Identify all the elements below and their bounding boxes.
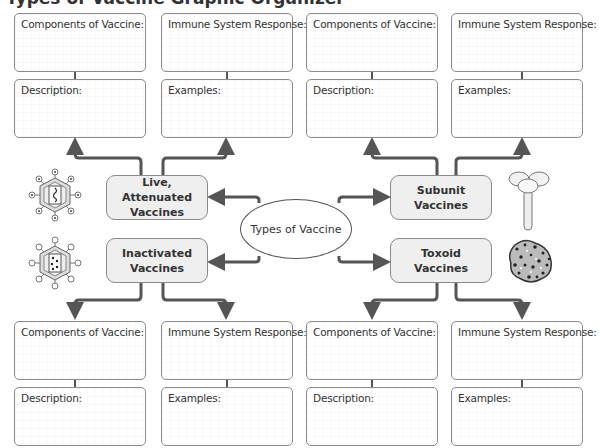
label-inactivated-vaccines: Inactivated Vaccines xyxy=(106,238,208,283)
panel-toxoid-components[interactable]: Components of Vaccine: xyxy=(306,321,438,380)
toxin-molecule-icon xyxy=(505,235,555,285)
panel-label: Description: xyxy=(313,392,374,404)
label-line: Vaccines xyxy=(122,261,192,276)
panel-label: Description: xyxy=(21,84,82,96)
panel-connector xyxy=(74,380,76,387)
panel-live-description[interactable]: Description: xyxy=(14,79,146,138)
panel-inactivated-immune-response[interactable]: Immune System Response: xyxy=(161,321,293,380)
panel-label: Components of Vaccine: xyxy=(313,18,436,30)
panel-subunit-components[interactable]: Components of Vaccine: xyxy=(306,13,438,72)
panel-live-examples[interactable]: Examples: xyxy=(161,79,293,138)
panel-toxoid-description[interactable]: Description: xyxy=(306,387,438,446)
label-line: Vaccines xyxy=(107,205,207,220)
center-label: Types of Vaccine xyxy=(251,223,342,236)
panel-label: Description: xyxy=(313,84,374,96)
panel-connector xyxy=(521,72,523,79)
panel-label: Immune System Response: xyxy=(458,326,597,338)
panel-label: Immune System Response: xyxy=(458,18,597,30)
protein-subunit-icon xyxy=(505,170,555,232)
panel-connector xyxy=(226,380,228,387)
label-line: Vaccines xyxy=(414,198,468,213)
panel-toxoid-immune-response[interactable]: Immune System Response: xyxy=(451,321,583,380)
label-line: Inactivated xyxy=(122,246,192,261)
virus-with-dots-icon xyxy=(28,236,82,290)
panel-subunit-immune-response[interactable]: Immune System Response: xyxy=(451,13,583,72)
label-live-attenuated-vaccines: Live, Attenuated Vaccines xyxy=(106,175,208,220)
panel-inactivated-components[interactable]: Components of Vaccine: xyxy=(14,321,146,380)
label-line: Toxoid xyxy=(414,246,468,261)
panel-label: Examples: xyxy=(458,392,511,404)
center-node: Types of Vaccine xyxy=(240,199,352,259)
panel-live-components[interactable]: Components of Vaccine: xyxy=(14,13,146,72)
panel-inactivated-examples[interactable]: Examples: xyxy=(161,387,293,446)
label-line: Live, Attenuated xyxy=(107,175,207,205)
panel-connector xyxy=(74,72,76,79)
panel-label: Description: xyxy=(21,392,82,404)
panel-inactivated-description[interactable]: Description: xyxy=(14,387,146,446)
label-subunit-vaccines: Subunit Vaccines xyxy=(390,175,492,220)
panel-label: Components of Vaccine: xyxy=(313,326,436,338)
panel-label: Examples: xyxy=(458,84,511,96)
panel-subunit-description[interactable]: Description: xyxy=(306,79,438,138)
panel-label: Immune System Response: xyxy=(168,18,307,30)
panel-connector xyxy=(371,380,373,387)
panel-connector xyxy=(521,380,523,387)
label-line: Subunit xyxy=(414,183,468,198)
panel-connector xyxy=(371,72,373,79)
panel-live-immune-response[interactable]: Immune System Response: xyxy=(161,13,293,72)
panel-toxoid-examples[interactable]: Examples: xyxy=(451,387,583,446)
panel-label: Examples: xyxy=(168,84,221,96)
panel-label: Examples: xyxy=(168,392,221,404)
panel-subunit-examples[interactable]: Examples: xyxy=(451,79,583,138)
label-toxoid-vaccines: Toxoid Vaccines xyxy=(390,238,492,283)
panel-label: Components of Vaccine: xyxy=(21,18,144,30)
panel-connector xyxy=(226,72,228,79)
label-line: Vaccines xyxy=(414,261,468,276)
panel-label: Components of Vaccine: xyxy=(21,326,144,338)
panel-label: Immune System Response: xyxy=(168,326,307,338)
virus-with-rna-icon xyxy=(28,168,82,222)
